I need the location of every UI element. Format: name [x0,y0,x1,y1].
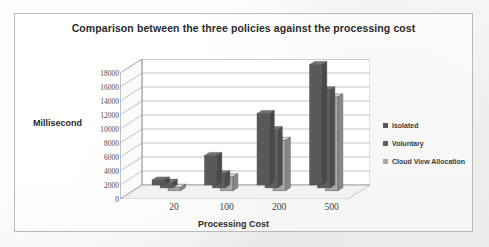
chart-frame: Comparison between the three policies ag… [14,13,473,232]
bar [205,152,222,185]
legend-swatch-icon [383,141,388,146]
legend-item: Isolated [383,122,465,129]
plot-svg [120,59,370,199]
legend-item: Cloud View Allocation [383,158,465,165]
bar [257,110,274,185]
chart-title: Comparison between the three policies ag… [15,22,472,34]
y-tick-label: 2000 [79,181,119,190]
x-tick-label: 500 [312,202,352,212]
bar-chart: Comparison between the three policies ag… [15,14,472,231]
y-tick-label: 6000 [79,153,119,162]
legend-label: Cloud View Allocation [392,158,465,165]
x-axis-title: Processing Cost [111,219,356,229]
y-tick-label: 14000 [79,97,119,106]
y-tick-label: 16000 [79,83,119,92]
x-axis-tick-labels: 20100200500 [120,202,380,216]
legend-swatch-icon [383,123,388,128]
y-tick-label: 0 [79,195,119,204]
legend-item: Voluntary [383,140,465,147]
y-axis-tick-labels: 1800016000140001200010000800060004000200… [75,59,119,199]
y-tick-label: 12000 [79,111,119,120]
x-tick-label: 20 [154,202,194,212]
legend-label: Isolated [392,122,418,129]
bar [310,61,327,185]
plot-area [120,59,370,199]
y-tick-label: 4000 [79,167,119,176]
legend-label: Voluntary [392,140,424,147]
y-tick-label: 10000 [79,125,119,134]
chart-legend: IsolatedVoluntaryCloud View Allocation [383,122,465,176]
y-tick-label: 18000 [79,69,119,78]
y-tick-label: 8000 [79,139,119,148]
legend-swatch-icon [383,159,388,164]
x-tick-label: 100 [207,202,247,212]
x-tick-label: 200 [259,202,299,212]
